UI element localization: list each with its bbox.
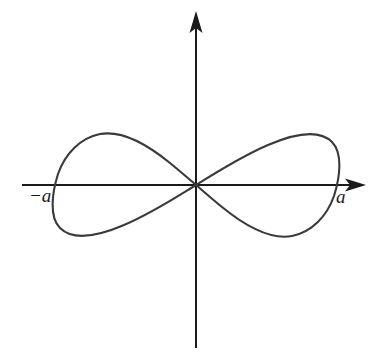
x-intercept-label-positive-a: a — [336, 187, 346, 206]
lemniscate-figure: −a a — [0, 0, 369, 362]
plot-canvas — [0, 0, 369, 362]
x-intercept-label-negative-a: −a — [29, 186, 51, 205]
